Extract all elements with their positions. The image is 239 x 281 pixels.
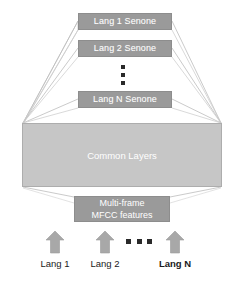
horizontal-ellipsis-icon (126, 239, 152, 244)
network-architecture-diagram: Lang 1 Senone Lang 2 Senone Lang N Senon… (0, 0, 239, 281)
input-features-line1: Multi-frame (99, 197, 144, 209)
input-features-block: Multi-frame MFCC features (74, 196, 170, 222)
ellipsis-dot (126, 239, 131, 244)
output-layer-lang1-senone: Lang 1 Senone (78, 13, 172, 30)
common-layers-block: Common Layers (22, 123, 222, 187)
vertical-ellipsis-icon (118, 65, 128, 85)
input-features-line2: MFCC features (91, 209, 152, 221)
ellipsis-dot (121, 81, 125, 85)
output-layer-langN-senone: Lang N Senone (78, 91, 172, 108)
ellipsis-dot (121, 65, 125, 69)
output-layer-lang2-senone: Lang 2 Senone (78, 40, 172, 57)
ellipsis-dot (121, 73, 125, 77)
input-label-lang2: Lang 2 (78, 258, 132, 269)
ellipsis-dot (147, 239, 152, 244)
ellipsis-dot (137, 239, 142, 244)
arrow-shape-group (46, 231, 184, 253)
input-label-langN: Lang N (148, 258, 202, 269)
input-label-lang1: Lang 1 (28, 258, 82, 269)
